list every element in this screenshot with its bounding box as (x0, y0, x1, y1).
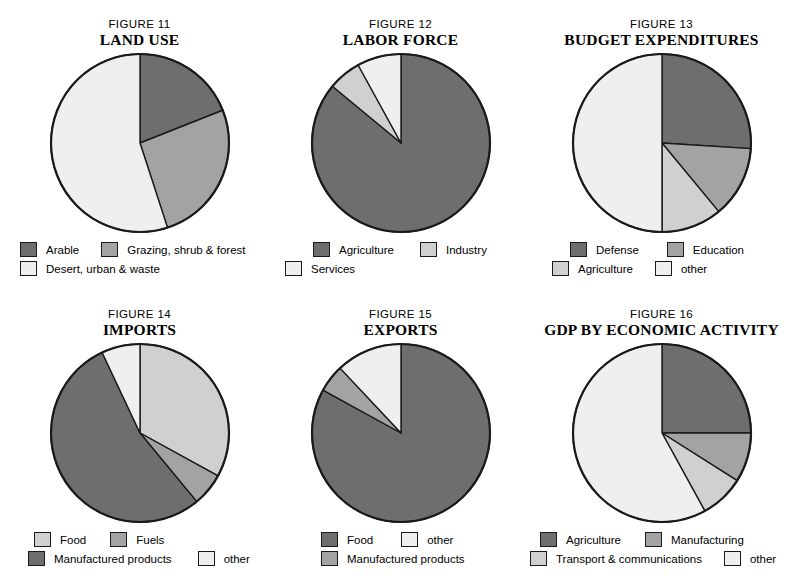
figure-15-title: EXPORTS (267, 321, 534, 338)
legend-item[interactable]: Services (285, 261, 355, 276)
legend-item[interactable]: Manufactured products (28, 551, 172, 566)
legend-label: Fuels (136, 533, 164, 547)
legend-row: Agriculture Industry (273, 242, 528, 257)
legend-item[interactable]: other (655, 261, 707, 276)
legend-row: Services (273, 261, 528, 276)
legend-label: other (427, 533, 453, 547)
figure-11-title: LAND USE (6, 31, 273, 48)
legend-item[interactable]: Manufacturing (645, 532, 744, 547)
legend-swatch (570, 242, 587, 257)
figure-15-legend: Food other Manufactured products (267, 532, 534, 566)
figure-16-pie-wrap (528, 340, 795, 526)
legend-item[interactable]: Food (321, 532, 373, 547)
legend-swatch (401, 532, 418, 547)
legend-label: Arable (46, 243, 79, 257)
legend-label: Agriculture (339, 243, 394, 257)
figure-13-legend: Defense Education Agriculture other (528, 242, 795, 276)
figure-16-title: GDP BY ECONOMIC ACTIVITY (528, 321, 795, 338)
legend-swatch (420, 242, 437, 257)
legend-item[interactable]: other (198, 551, 250, 566)
legend-swatch (645, 532, 662, 547)
figure-14: FIGURE 14 IMPORTS Food Fuels Manufacture… (6, 308, 273, 570)
figure-12-pie-chart (308, 50, 494, 236)
legend-label: Transport & communications (556, 552, 702, 566)
legend-label: Manufactured products (54, 552, 172, 566)
legend-swatch (321, 551, 338, 566)
figure-16-number: FIGURE 16 (528, 308, 795, 321)
legend-swatch (667, 242, 684, 257)
figure-12-title: LABOR FORCE (267, 31, 534, 48)
legend-label: Agriculture (566, 533, 621, 547)
legend-swatch (530, 551, 547, 566)
figure-11-pie-wrap (6, 50, 273, 236)
legend-label: Services (311, 262, 355, 276)
legend-label: other (750, 552, 776, 566)
figure-16-pie-chart (569, 340, 755, 526)
figure-14-legend: Food Fuels Manufactured products other (6, 532, 273, 566)
legend-swatch (724, 551, 741, 566)
figure-11-legend: Arable Grazing, shrub & forest Desert, u… (6, 242, 273, 276)
legend-item[interactable]: Industry (420, 242, 487, 257)
legend-label: other (681, 262, 707, 276)
legend-swatch (34, 532, 51, 547)
legend-label: Agriculture (578, 262, 633, 276)
legend-label: other (224, 552, 250, 566)
legend-label: Industry (446, 243, 487, 257)
figure-11-pie-chart (47, 50, 233, 236)
legend-label: Defense (596, 243, 639, 257)
legend-label: Manufactured products (347, 552, 465, 566)
figure-12-number: FIGURE 12 (267, 18, 534, 31)
legend-item[interactable]: Education (667, 242, 744, 257)
figure-16-legend: Agriculture Manufacturing Transport & co… (528, 532, 795, 566)
legend-item[interactable]: Agriculture (552, 261, 633, 276)
legend-swatch (313, 242, 330, 257)
figure-15-number: FIGURE 15 (267, 308, 534, 321)
legend-swatch (101, 242, 118, 257)
figure-15-pie-wrap (267, 340, 534, 526)
figure-11: FIGURE 11 LAND USE Arable Grazing, shrub… (6, 18, 273, 280)
legend-label: Food (60, 533, 86, 547)
legend-item[interactable]: Arable (20, 242, 79, 257)
legend-item[interactable]: Transport & communications (530, 551, 702, 566)
figure-12-legend: Agriculture Industry Services (267, 242, 534, 276)
figure-14-title: IMPORTS (6, 321, 273, 338)
legend-swatch (285, 261, 302, 276)
legend-label: Manufacturing (671, 533, 744, 547)
legend-item[interactable]: Grazing, shrub & forest (101, 242, 245, 257)
legend-item[interactable]: Food (34, 532, 86, 547)
legend-label: Desert, urban & waste (46, 262, 160, 276)
legend-row: Manufactured products other (12, 551, 267, 566)
legend-row: Agriculture other (534, 261, 789, 276)
legend-row: Agriculture Manufacturing (528, 532, 795, 547)
legend-item[interactable]: Defense (570, 242, 639, 257)
legend-item[interactable]: other (401, 532, 453, 547)
legend-swatch (198, 551, 215, 566)
legend-swatch (28, 551, 45, 566)
legend-swatch (655, 261, 672, 276)
legend-swatch (540, 532, 557, 547)
figure-11-number: FIGURE 11 (6, 18, 273, 31)
legend-item[interactable]: Agriculture (313, 242, 394, 257)
legend-label: Education (693, 243, 744, 257)
figure-13-pie-chart (569, 50, 755, 236)
pie-slice[interactable] (573, 54, 662, 232)
legend-item[interactable]: Manufactured products (321, 551, 465, 566)
legend-item[interactable]: other (724, 551, 776, 566)
legend-row: Food Fuels (12, 532, 267, 547)
figure-13-pie-wrap (528, 50, 795, 236)
pie-slice[interactable] (662, 54, 751, 149)
legend-swatch (20, 242, 37, 257)
figure-13-number: FIGURE 13 (528, 18, 795, 31)
figures-sheet: FIGURE 11 LAND USE Arable Grazing, shrub… (0, 0, 801, 586)
legend-swatch (552, 261, 569, 276)
legend-item[interactable]: Agriculture (540, 532, 621, 547)
legend-row: Food other (273, 532, 528, 547)
figure-13-title: BUDGET EXPENDITURES (528, 31, 795, 48)
legend-item[interactable]: Desert, urban & waste (20, 261, 160, 276)
figure-12: FIGURE 12 LABOR FORCE Agriculture Indust… (267, 18, 534, 280)
legend-item[interactable]: Fuels (110, 532, 164, 547)
pie-slice[interactable] (662, 344, 751, 433)
figure-12-pie-wrap (267, 50, 534, 236)
legend-label: Grazing, shrub & forest (127, 243, 245, 257)
legend-row: Arable Grazing, shrub & forest (12, 242, 267, 257)
